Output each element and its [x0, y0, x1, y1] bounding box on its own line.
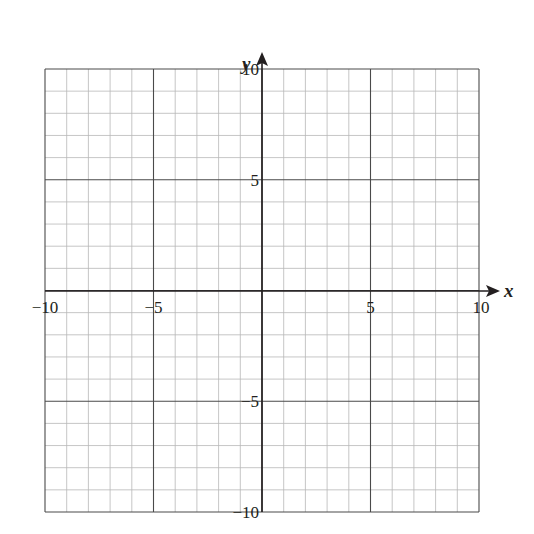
y-tick-label: −10 [232, 503, 259, 522]
x-tick-label: −5 [144, 298, 162, 317]
y-tick-label: 5 [251, 171, 260, 190]
x-axis-label: x [503, 280, 514, 301]
y-tick-label: −5 [241, 392, 259, 411]
axes: x y [45, 52, 514, 512]
coordinate-plane: x y −10−5510105−5−10 [0, 0, 534, 534]
x-tick-label: 10 [473, 298, 490, 317]
x-tick-label: −10 [32, 298, 59, 317]
x-tick-label: 5 [366, 298, 375, 317]
y-tick-label: 10 [242, 60, 259, 79]
